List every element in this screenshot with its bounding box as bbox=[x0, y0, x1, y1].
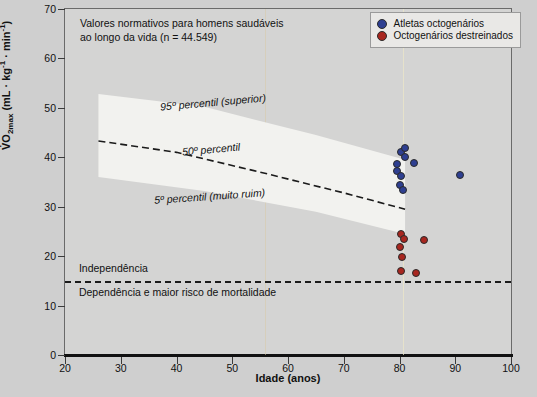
legend-label-untrained: Octogenários destreinados bbox=[393, 30, 513, 41]
data-point-athlete bbox=[401, 144, 409, 152]
chart-title-line-1: Valores normativos para homens saudáveis bbox=[80, 16, 284, 30]
y-tick-mark bbox=[58, 207, 65, 208]
data-point-athlete bbox=[397, 172, 405, 180]
x-tick-mark bbox=[400, 357, 401, 364]
x-tick-mark bbox=[232, 357, 233, 364]
legend-label-athletes: Atletas octogenários bbox=[393, 18, 484, 29]
x-tick-mark bbox=[121, 357, 122, 364]
y-tick-mark bbox=[58, 58, 65, 59]
x-tick-mark bbox=[511, 357, 512, 364]
plot-area: 95º percentil (superior)50º percentil5º … bbox=[65, 9, 511, 355]
data-point-untrained bbox=[396, 243, 404, 251]
x-tick-mark bbox=[65, 357, 66, 364]
x-tick-mark bbox=[177, 357, 178, 364]
y-tick-label: 20 bbox=[22, 250, 56, 262]
y-tick-label: 70 bbox=[22, 3, 56, 15]
legend-dot-untrained bbox=[377, 31, 387, 41]
y-axis-label: V̇O2max (mL · kg-1 · min-1) bbox=[0, 21, 15, 150]
chart-title-line-2: ao longo da vida (n = 44.549) bbox=[80, 30, 284, 44]
legend-item-athletes: Atletas octogenários bbox=[377, 18, 513, 29]
data-point-athlete bbox=[456, 171, 464, 179]
chart-root: V̇O2max (mL · kg-1 · min-1) Idade (anos)… bbox=[0, 0, 537, 397]
y-tick-mark bbox=[58, 157, 65, 158]
y-tick-mark bbox=[58, 9, 65, 10]
y-tick-mark bbox=[58, 355, 65, 356]
x-tick-mark bbox=[344, 357, 345, 364]
y-tick-label: 50 bbox=[22, 102, 56, 114]
annotation-dependence: Dependência e maior risco de mortalidade bbox=[79, 286, 276, 298]
y-tick-mark bbox=[58, 256, 65, 257]
percentile-50-line bbox=[65, 9, 511, 355]
data-point-untrained bbox=[397, 267, 405, 275]
y-tick-label: 30 bbox=[22, 201, 56, 213]
legend-item-untrained: Octogenários destreinados bbox=[377, 30, 513, 41]
x-tick-mark bbox=[288, 357, 289, 364]
legend-dot-athletes bbox=[377, 19, 387, 29]
y-tick-label: 0 bbox=[22, 349, 56, 361]
y-tick-label: 60 bbox=[22, 52, 56, 64]
y-tick-label: 40 bbox=[22, 151, 56, 163]
y-tick-mark bbox=[58, 306, 65, 307]
x-tick-mark bbox=[455, 357, 456, 364]
y-tick-label: 10 bbox=[22, 300, 56, 312]
y-tick-mark bbox=[58, 108, 65, 109]
independence-threshold-line bbox=[65, 281, 511, 283]
chart-title: Valores normativos para homens saudáveis… bbox=[80, 16, 284, 44]
data-point-athlete bbox=[401, 153, 409, 161]
annotation-independence: Independência bbox=[79, 262, 148, 274]
chart-legend: Atletas octogenários Octogenários destre… bbox=[370, 12, 521, 48]
